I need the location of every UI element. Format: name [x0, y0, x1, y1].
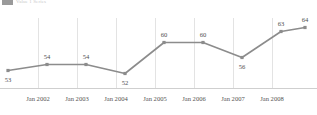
- data-point-0[interactable]: [6, 69, 9, 72]
- data-point-markers: [6, 26, 306, 75]
- tick-label-0: Jan 2002: [26, 95, 50, 102]
- data-point-2[interactable]: [84, 63, 87, 66]
- line-chart: Value 1 Series 535454526060566364 Jan 20…: [0, 0, 317, 115]
- point-label-3: 52: [122, 79, 129, 86]
- point-label-2: 54: [83, 53, 90, 60]
- series-line-value-1: [8, 28, 305, 74]
- series-path: [8, 28, 305, 74]
- tick-label-1: Jan 2003: [65, 95, 89, 102]
- point-label-1: 54: [44, 53, 51, 60]
- data-point-labels: 535454526060566364: [5, 16, 309, 86]
- data-point-7[interactable]: [279, 30, 282, 33]
- point-label-6: 56: [239, 63, 246, 70]
- tick-label-3: Jan 2005: [143, 95, 167, 102]
- point-label-7: 63: [278, 20, 285, 27]
- x-axis-tick-labels: Jan 2002Jan 2003Jan 2004Jan 2005Jan 2006…: [26, 95, 284, 102]
- data-point-4[interactable]: [162, 41, 165, 44]
- point-label-8: 64: [302, 16, 309, 23]
- data-point-3[interactable]: [123, 72, 126, 75]
- data-point-8[interactable]: [303, 26, 306, 29]
- tick-label-2: Jan 2004: [104, 95, 128, 102]
- point-label-5: 60: [200, 31, 207, 38]
- data-point-1[interactable]: [45, 63, 48, 66]
- gridlines: [38, 18, 272, 88]
- point-label-0: 53: [5, 76, 12, 83]
- tick-label-6: Jan 2008: [260, 95, 284, 102]
- tick-label-5: Jan 2007: [221, 95, 245, 102]
- data-point-5[interactable]: [201, 41, 204, 44]
- point-label-4: 60: [161, 31, 168, 38]
- plot-area: 535454526060566364 Jan 2002Jan 2003Jan 2…: [0, 0, 317, 115]
- data-point-6[interactable]: [240, 56, 243, 59]
- tick-label-4: Jan 2006: [182, 95, 206, 102]
